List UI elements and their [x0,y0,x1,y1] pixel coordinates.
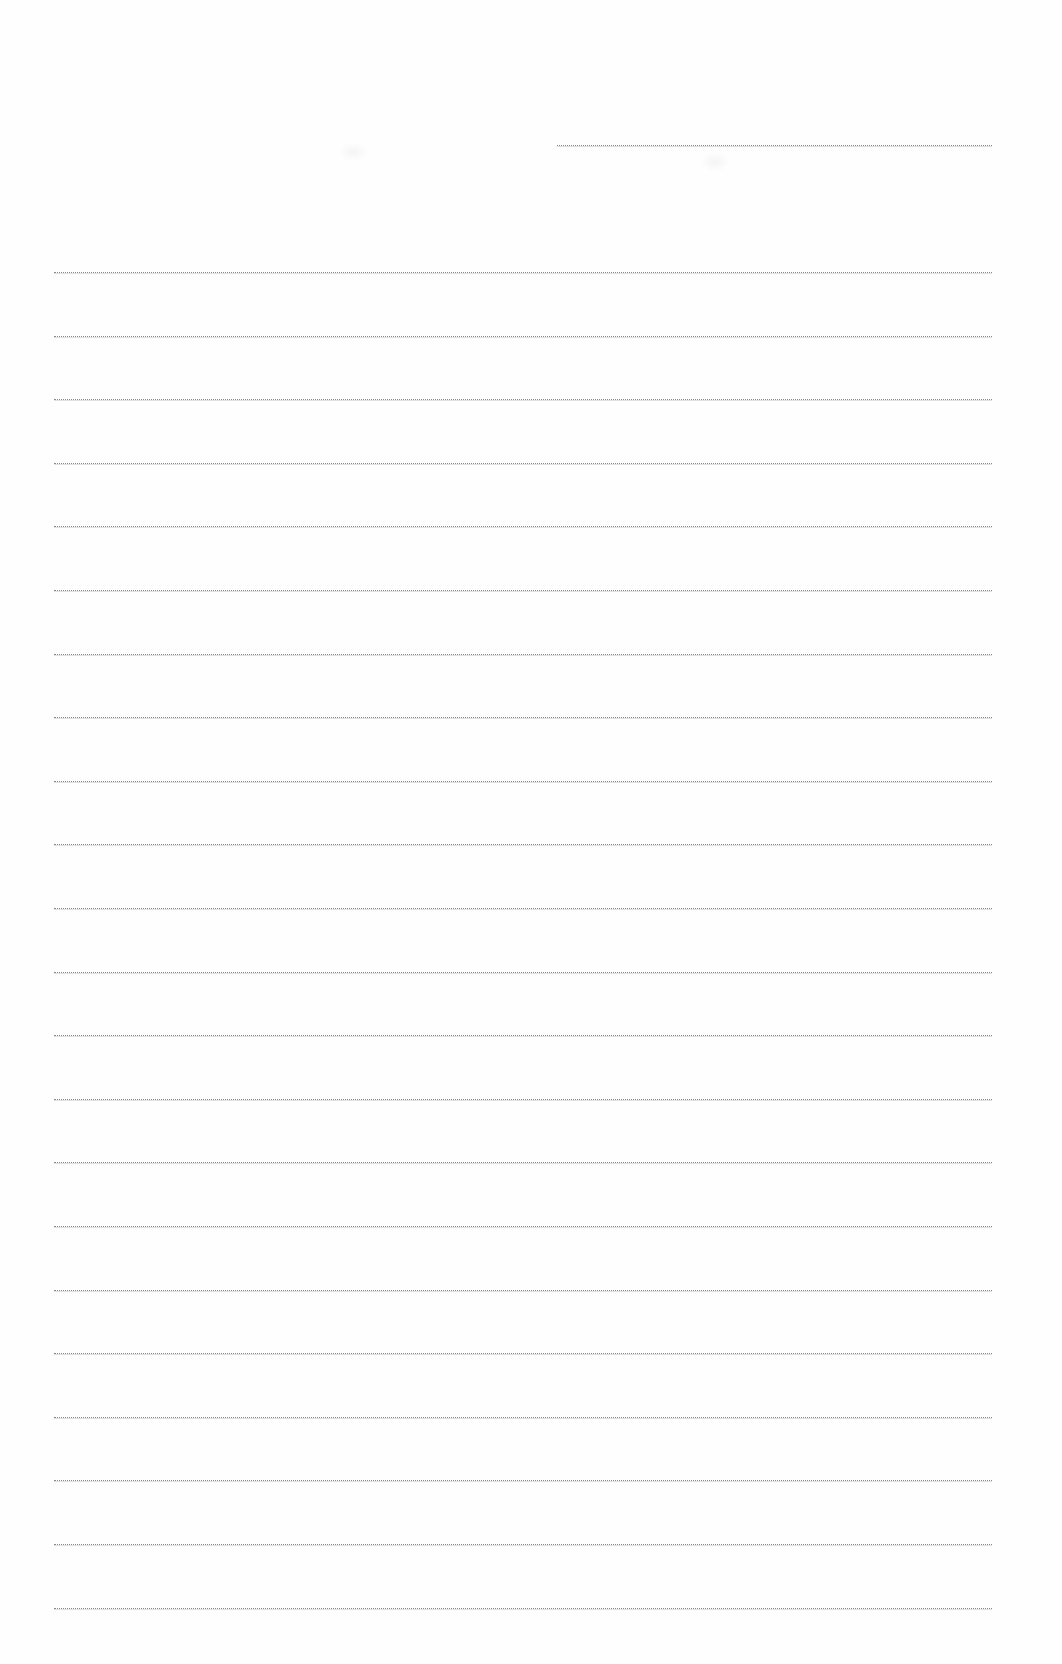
ruled-line [54,908,992,909]
ruled-line [54,463,992,464]
ruled-line [54,1035,992,1036]
ruled-line [54,1290,992,1291]
bleed-through-mark [700,152,730,172]
ruled-line [54,717,992,718]
ruled-line [54,844,992,845]
ruled-line [54,972,992,973]
ruled-line [54,654,992,655]
ruled-line [54,1544,992,1545]
ruled-line [54,1417,992,1418]
ruled-line [54,1353,992,1354]
ruled-line [54,1226,992,1227]
ruled-line [54,336,992,337]
ruled-line [54,590,992,591]
ruled-line [54,1162,992,1163]
ruled-line [54,781,992,782]
header-rule-line [557,145,992,146]
ruled-line [54,399,992,400]
bleed-through-mark [338,142,368,162]
ruled-line [54,272,992,273]
lined-page [0,0,1062,1664]
ruled-line [54,1099,992,1100]
ruled-line [54,526,992,527]
ruled-line [54,1480,992,1481]
ruled-line [54,1608,992,1609]
